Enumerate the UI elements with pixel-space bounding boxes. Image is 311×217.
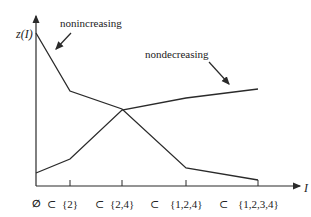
nonincreasing-arrow bbox=[56, 33, 71, 49]
nondecreasing-label: nondecreasing bbox=[145, 49, 209, 60]
tick-label-1234: {1,2,3,4} bbox=[238, 199, 279, 210]
subset-symbol: ⊂ bbox=[47, 199, 56, 210]
tick-label-2: {2} bbox=[62, 199, 78, 210]
subset-symbol: ⊂ bbox=[95, 199, 104, 210]
nondecreasing-arrow bbox=[209, 62, 229, 84]
nondecreasing-curve bbox=[36, 89, 258, 173]
nonincreasing-label: nonincreasing bbox=[60, 18, 122, 29]
tick-label-24: {2,4} bbox=[110, 199, 134, 210]
y-axis-label: z(I) bbox=[16, 28, 33, 40]
tick-label-empty: ∅ bbox=[32, 199, 41, 209]
tick-label-124: {1,2,4} bbox=[170, 199, 203, 210]
x-ticks bbox=[70, 180, 258, 186]
subset-symbol: ⊂ bbox=[219, 199, 228, 210]
diagram-canvas bbox=[0, 0, 311, 217]
subset-symbol: ⊂ bbox=[150, 199, 159, 210]
x-axis-label: I bbox=[304, 182, 308, 194]
